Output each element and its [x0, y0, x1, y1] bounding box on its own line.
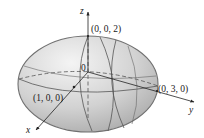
x-axis-label: x	[25, 125, 31, 135]
y-axis-label: y	[188, 105, 194, 115]
point-x-label: (1, 0, 0)	[33, 93, 63, 104]
point-y-label: (0, 3, 0)	[158, 84, 188, 95]
point-z-label: (0, 0, 2)	[91, 24, 121, 35]
origin-label: 0	[81, 63, 86, 73]
point-x-marker	[73, 86, 76, 89]
ellipsoid-diagram: z y x 0 (0, 0, 2) (0, 3, 0) (1, 0, 0)	[0, 0, 204, 138]
point-z-marker	[87, 35, 89, 37]
z-axis-label: z	[79, 6, 84, 16]
